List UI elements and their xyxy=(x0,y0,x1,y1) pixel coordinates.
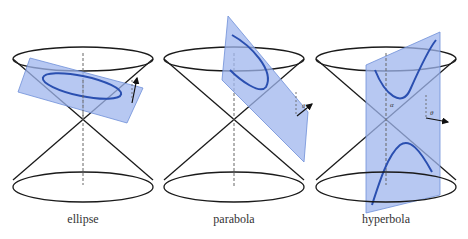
conic-sections-diagram: θ α θ xyxy=(0,0,468,239)
hyperbola-panel xyxy=(316,32,456,213)
alpha-label: α xyxy=(390,101,394,109)
caption-parabola: parabola xyxy=(184,212,284,227)
parabola-panel xyxy=(164,16,312,202)
ellipse-panel xyxy=(13,47,153,202)
theta-label: θ xyxy=(302,102,306,110)
cutting-plane xyxy=(18,58,143,123)
theta-label: θ xyxy=(430,109,434,117)
cutting-plane xyxy=(366,32,440,213)
caption-ellipse: ellipse xyxy=(33,212,133,227)
caption-hyperbola: hyperbola xyxy=(336,212,436,227)
